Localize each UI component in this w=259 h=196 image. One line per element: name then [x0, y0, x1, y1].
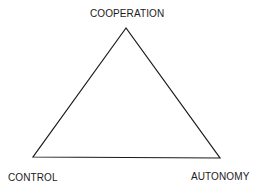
label-control: CONTROL — [8, 173, 58, 183]
label-cooperation: COOPERATION — [90, 9, 164, 19]
triangle-diagram: COOPERATION CONTROL AUTONOMY — [0, 0, 259, 196]
triangle-shape — [0, 0, 259, 196]
label-autonomy: AUTONOMY — [191, 172, 249, 182]
